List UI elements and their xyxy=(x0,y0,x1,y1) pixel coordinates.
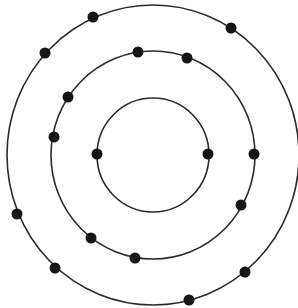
inner-shell-orbit xyxy=(97,98,209,212)
atom-diagram xyxy=(0,0,298,308)
middle-shell-electron xyxy=(130,253,141,264)
outer-shell-electron xyxy=(226,23,237,34)
outer-shell-electron xyxy=(184,295,195,306)
inner-shell-electron xyxy=(92,149,103,160)
outer-shell-electron xyxy=(40,48,51,59)
middle-shell-orbit xyxy=(51,51,255,259)
middle-shell-electron xyxy=(86,233,97,244)
inner-shell-electron xyxy=(203,149,214,160)
middle-shell-electron xyxy=(236,200,247,211)
outer-shell-electron xyxy=(88,12,99,23)
middle-shell-electron xyxy=(182,53,193,64)
outer-shell-electron xyxy=(240,267,251,278)
middle-shell-electron xyxy=(49,132,60,143)
electrons xyxy=(12,12,260,306)
outer-shell-electron xyxy=(50,263,61,274)
middle-shell-electron xyxy=(249,149,260,160)
outer-shell-electron xyxy=(12,209,23,220)
atom-diagram-canvas xyxy=(0,0,298,308)
middle-shell-electron xyxy=(63,92,74,103)
middle-shell-electron xyxy=(133,47,144,58)
